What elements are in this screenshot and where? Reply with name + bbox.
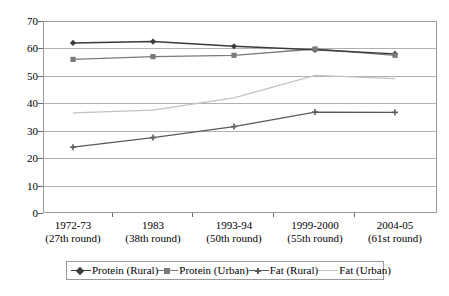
legend-label-protein-rural: Protein (Rural) [92,265,158,276]
series-line-fat-urban [73,75,395,113]
data-point-marker [70,57,75,62]
legend-label-fat-urban: Fat (Urban) [339,265,391,276]
series-layer [0,0,449,296]
legend-marker-diamond-icon [71,265,91,276]
series-markers [70,38,398,150]
legend: Protein (Rural) Protein (Urban) Fat (Rur… [66,261,384,280]
series-line-fat-rural [73,112,395,147]
x-axis-label-4-line1: 1999-2000 [291,219,339,231]
data-point-marker [231,53,236,58]
legend-marker-square-icon [158,265,178,276]
x-axis-label-2-line1: 1983 [142,219,164,231]
data-point-marker [70,144,76,150]
chart-container: 70 60 50 40 30 20 10 0 1972-73 ( [0,0,449,296]
legend-marker-line-icon [318,265,338,276]
data-point-marker [312,109,318,115]
legend-marker-cross-icon [249,265,269,276]
data-point-marker [150,38,156,44]
legend-label-fat-rural: Fat (Rural) [270,265,319,276]
legend-item-protein-rural[interactable]: Protein (Rural) [71,265,158,276]
x-axis-label-1-line1: 1972-73 [55,219,92,231]
legend-item-protein-urban[interactable]: Protein (Urban) [158,265,248,276]
legend-item-fat-urban[interactable]: Fat (Urban) [318,265,391,276]
data-point-marker [392,109,398,115]
data-point-marker [231,124,237,130]
x-axis-label-3-line1: 1993-94 [216,219,253,231]
x-axis-label-5-line1: 2004-05 [377,219,414,231]
data-point-marker [392,53,397,58]
legend-item-fat-rural[interactable]: Fat (Rural) [249,265,319,276]
legend-label-protein-urban: Protein (Urban) [179,265,248,276]
data-point-marker [150,135,156,141]
data-point-marker [312,46,317,51]
data-point-marker [231,43,237,49]
data-point-marker [150,54,155,59]
data-point-marker [70,40,76,46]
x-axis-label-5: 2004-05 (61st round) [347,219,443,245]
x-axis-label-5-line2: (61st round) [347,232,443,245]
